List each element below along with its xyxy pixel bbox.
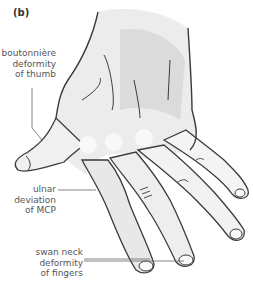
label-ulnar-deviation-mcp: ulnar deviation of MCP — [6, 184, 56, 216]
label-swan-neck-fingers: swan neck deformity of fingers — [23, 247, 83, 279]
rheumatoid-hand-illustration — [0, 0, 253, 285]
mcp-knuckle — [105, 133, 123, 151]
mcp-knuckle — [135, 129, 153, 147]
leader-thumb — [32, 88, 42, 140]
label-boutonniere-thumb: boutonnière deformity of thumb — [0, 48, 56, 80]
mcp-knuckle — [79, 136, 97, 154]
